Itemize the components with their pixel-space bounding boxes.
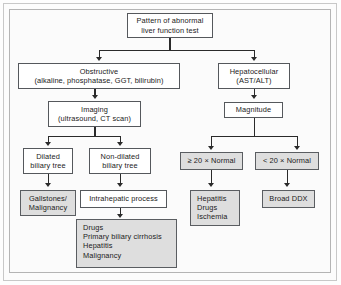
node-obstructive-line1: Obstructive (80, 67, 118, 76)
node-gallstones-line2: Malignancy (29, 203, 67, 212)
arrow-magnitude (251, 95, 257, 99)
node-ge20-line1: ≥ 20 × Normal (188, 156, 236, 165)
connector-bus-row1 (99, 50, 255, 51)
arrow-imaging (92, 95, 98, 99)
node-magnitude: Magnitude (224, 102, 283, 118)
node-intrahepatic-line1: Intrahepatic process (89, 194, 158, 203)
node-hepatitis-list-line3: Ischemia (197, 212, 227, 221)
node-non-dilated-biliary-tree: Non-dilated biliary tree (89, 148, 151, 174)
node-root-line2: liver function test (141, 26, 198, 35)
node-hepatitis-drugs-ischemia: Hepatitis Drugs Ischemia (190, 190, 240, 226)
node-lt20-line1: < 20 × Normal (263, 156, 311, 165)
connector-lt20-broad-ddx (287, 170, 288, 184)
node-hepatocellular-line2: (AST/ALT) (236, 76, 271, 85)
arrow-broad-ddx (284, 183, 290, 187)
arrow-intrahepatic (117, 183, 123, 187)
node-imaging: Imaging (ultrasound, CT scan) (48, 101, 141, 127)
arrow-lt20 (294, 146, 300, 150)
node-root: Pattern of abnormal liver function test (127, 13, 213, 38)
node-broad-ddx: Broad DDX (262, 190, 315, 208)
node-intrahepatic-list-line3: Hepatitis (83, 241, 113, 250)
arrow-non-dilated (117, 142, 123, 146)
node-non-dilated-line2: biliary tree (102, 161, 137, 170)
node-intrahepatic-list-line2: Primary biliary cirrhosis (83, 232, 162, 241)
arrow-hepatocellular (251, 57, 257, 61)
connector-bus-imaging (48, 136, 121, 137)
flowchart-figure: Pattern of abnormal liver function test … (0, 0, 341, 285)
node-root-line1: Pattern of abnormal (137, 16, 204, 25)
connector-bus-magnitude (211, 136, 298, 137)
node-hepatocellular: Hepatocellular (AST/ALT) (218, 63, 290, 89)
node-gallstones-line1: Gallstones/ (29, 194, 67, 203)
arrow-ge20 (208, 146, 214, 150)
node-hepatitis-list-line1: Hepatitis (197, 194, 227, 203)
arrow-intrahepatic-list (117, 214, 123, 218)
node-lt-20-normal: < 20 × Normal (255, 152, 319, 170)
node-broad-ddx-line1: Broad DDX (269, 194, 307, 203)
node-intrahepatic-causes-list: Drugs Primary biliary cirrhosis Hepatiti… (76, 219, 177, 268)
node-hepatocellular-line1: Hepatocellular (230, 67, 279, 76)
node-intrahepatic-list-line1: Drugs (83, 223, 103, 232)
node-gallstones-malignancy: Gallstones/ Malignancy (20, 190, 76, 216)
node-hepatitis-list-line2: Drugs (197, 203, 217, 212)
node-non-dilated-line1: Non-dilated (101, 152, 140, 161)
node-dilated-line2: biliary tree (30, 161, 65, 170)
node-ge-20-normal: ≥ 20 × Normal (180, 152, 243, 170)
node-magnitude-line1: Magnitude (236, 105, 271, 114)
node-obstructive: Obstructive (alkaline, phosphatase, GGT,… (18, 63, 180, 89)
node-intrahepatic-list-line4: Malignancy (83, 251, 121, 260)
connector-ge20-hepatitis (211, 170, 212, 184)
arrow-dilated (45, 142, 51, 146)
arrow-hepatitis-list (208, 183, 214, 187)
node-imaging-line1: Imaging (81, 105, 108, 114)
node-dilated-line1: Dilated (36, 152, 60, 161)
node-obstructive-line2: (alkaline, phosphatase, GGT, bilirubin) (34, 76, 163, 85)
arrow-gallstones (45, 183, 51, 187)
node-intrahepatic-process: Intrahepatic process (80, 190, 167, 208)
arrow-obstructive (96, 57, 102, 61)
node-imaging-line2: (ultrasound, CT scan) (58, 114, 131, 123)
node-dilated-biliary-tree: Dilated biliary tree (23, 148, 73, 174)
connector-magnitude-stem (254, 118, 255, 137)
